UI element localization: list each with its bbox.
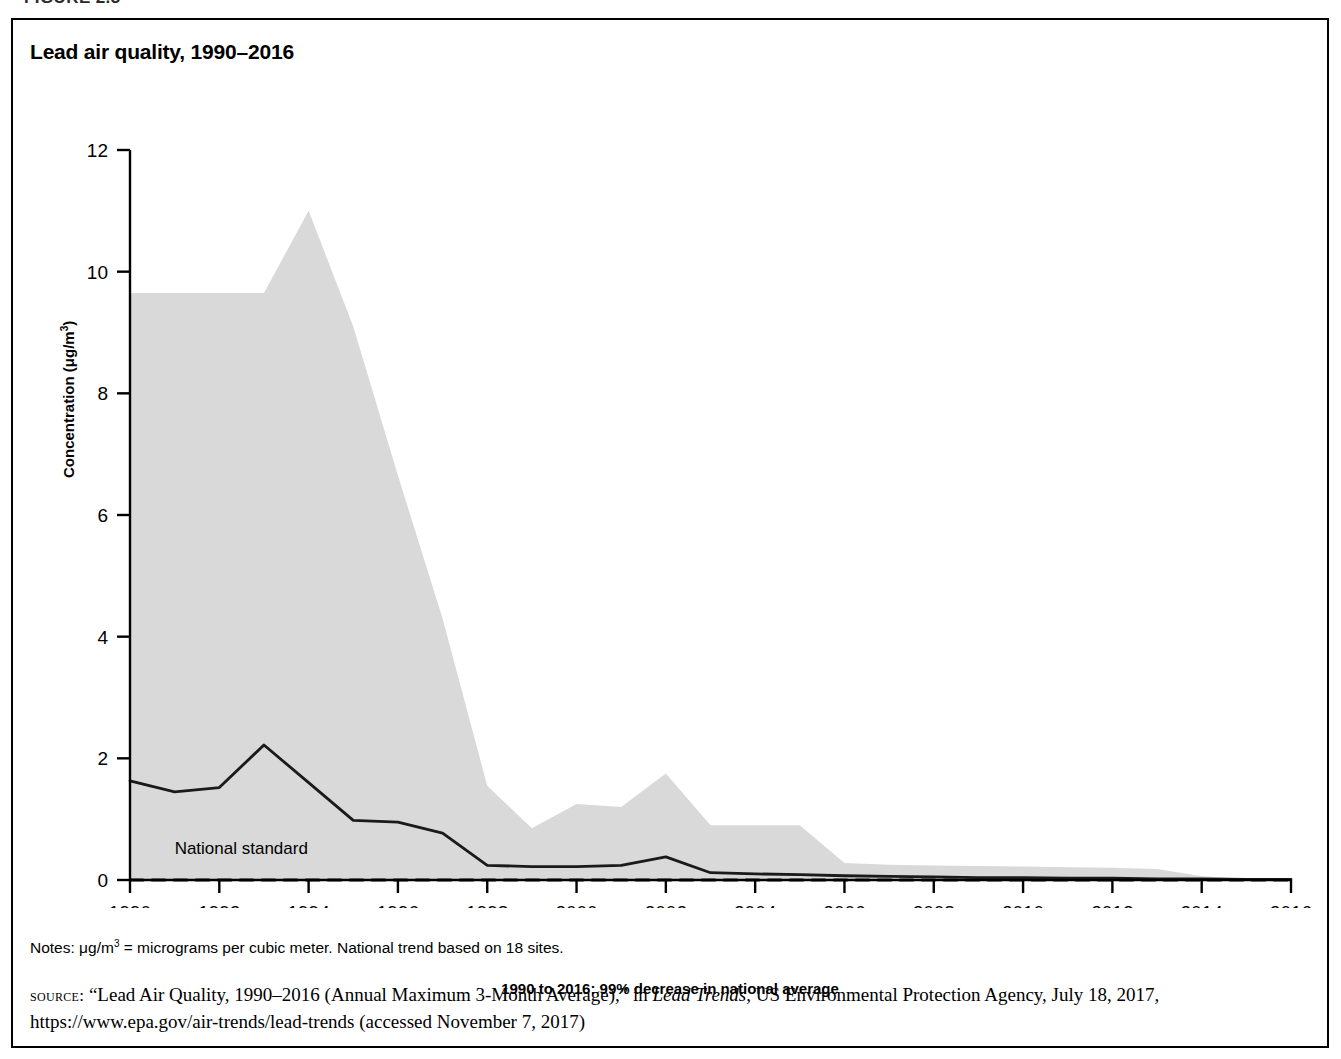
figure-container: Lead air quality, 1990–2016 Concentratio… [11,18,1329,1048]
y-axis-tick-label: 4 [97,627,108,648]
source-label: source: [30,986,84,1005]
x-axis-tick-label: 1996 [377,902,419,908]
x-axis-tick-label: 2004 [734,902,777,908]
y-axis-tick-label: 2 [97,748,108,769]
x-axis-tick-label: 2012 [1091,902,1133,908]
y-axis-tick-label: 12 [87,140,108,161]
x-axis-tick-label: 1998 [466,902,508,908]
figure-number-heading: FIGURE 2.3 [24,0,121,8]
y-axis-title-text: Concentration (μg/m [60,331,77,478]
y-axis-title-close: ) [60,321,77,326]
x-axis-tick-label: 2006 [823,902,865,908]
chart-source: source: “Lead Air Quality, 1990–2016 (An… [30,982,1310,1035]
x-axis-tick-label: 2010 [1002,902,1044,908]
notes-rest: = micrograms per cubic meter. National t… [119,939,563,956]
y-axis-tick-label: 6 [97,505,108,526]
x-axis-tick-label: 2002 [645,902,687,908]
y-axis-title: Concentration (μg/m3) [59,321,77,478]
x-axis-tick-label: 2008 [913,902,955,908]
lead-air-quality-chart: 0246810121990199219941996199820002002200… [13,98,1327,908]
figure-title: Lead air quality, 1990–2016 [30,40,294,64]
notes-prefix: Notes: μg/m [30,939,114,956]
y-axis-title-exponent: 3 [59,326,70,332]
chart-plot-area: Concentration (μg/m3) 024681012199019921… [13,98,1327,908]
x-axis-tick-label: 1994 [287,902,330,908]
y-axis-tick-label: 10 [87,262,108,283]
y-axis-tick-label: 8 [97,383,108,404]
x-axis-tick-label: 1992 [198,902,240,908]
source-publication-title: Lead Trends [652,984,746,1005]
x-axis-tick-label: 2000 [555,902,597,908]
y-axis-tick-label: 0 [97,870,108,891]
chart-notes: Notes: μg/m3 = micrograms per cubic mete… [30,938,564,957]
x-axis-tick-label: 2014 [1181,902,1224,908]
source-text-part1: “Lead Air Quality, 1990–2016 (Annual Max… [84,984,652,1005]
x-axis-tick-label: 1990 [109,902,151,908]
national-standard-annotation: National standard [175,839,308,858]
x-axis-tick-label: 2016 [1270,902,1312,908]
